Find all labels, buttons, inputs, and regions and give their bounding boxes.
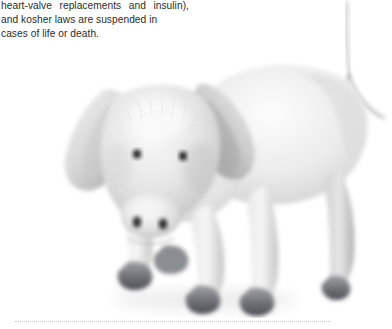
- pig-eye-right: [179, 152, 187, 161]
- body-text-line-1: heart-valve replacements and insulin),: [1, 0, 189, 13]
- body-text-block: heart-valve replacements and insulin), a…: [1, 0, 189, 41]
- body-text-line-3: cases of life or death.: [1, 27, 189, 41]
- body-text-word: insulin),: [153, 0, 189, 13]
- body-text-word: replacements: [59, 0, 121, 13]
- body-text-word: heart-valve: [1, 0, 52, 13]
- body-text-line-2: and kosher laws are suspended in: [1, 13, 189, 27]
- pig-photograph: [0, 0, 392, 318]
- body-text-word: and: [129, 0, 146, 13]
- pig-nostril-left: [133, 216, 141, 227]
- scanned-page: heart-valve replacements and insulin), a…: [0, 0, 392, 329]
- dotted-divider: [15, 321, 331, 322]
- pig-nostril-right: [159, 218, 167, 229]
- pig-eye-left: [133, 149, 141, 158]
